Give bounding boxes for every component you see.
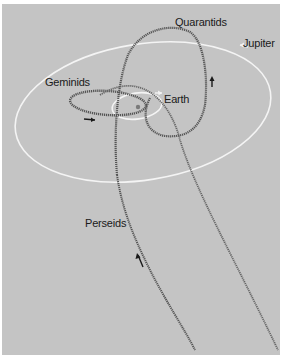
sun [136, 105, 140, 109]
quarantids-label: Quarantids [175, 16, 227, 28]
jupiter-label: Jupiter [243, 37, 275, 49]
perseids-orbit [117, 175, 195, 350]
geminids-label: Geminids [45, 76, 90, 88]
diagram-canvas: Quarantids Jupiter Geminids Earth Persei… [0, 0, 282, 355]
geminids-arrowhead-icon [91, 118, 95, 123]
earth-label: Earth [164, 93, 189, 105]
perseids-label: Perseids [85, 217, 126, 229]
earth-arrowhead-icon [158, 91, 162, 96]
quarantids-arrowhead-icon [210, 76, 215, 81]
perseids-outer-leg [100, 86, 278, 350]
jupiter-orbit [5, 25, 281, 200]
orbit-diagram [0, 0, 282, 355]
